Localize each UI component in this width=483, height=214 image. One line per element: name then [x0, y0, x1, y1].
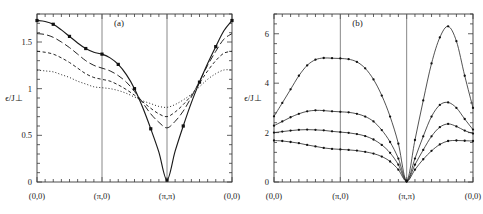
data-marker [472, 132, 474, 134]
data-marker [364, 67, 366, 69]
data-marker [273, 125, 275, 127]
data-marker [281, 140, 283, 142]
data-marker [289, 88, 291, 90]
data-marker [314, 129, 316, 131]
y-axis-label: ϵ/J⊥ [5, 93, 23, 103]
data-marker [447, 25, 449, 27]
data-marker [472, 140, 474, 142]
data-marker [422, 99, 424, 101]
data-marker [273, 139, 275, 141]
data-marker [389, 115, 391, 117]
data-marker [430, 62, 432, 64]
data-marker [289, 129, 291, 131]
data-marker [364, 115, 366, 117]
y-tick-label: 4 [265, 78, 270, 88]
data-marker [372, 78, 374, 80]
data-marker [306, 64, 308, 66]
data-marker [381, 155, 383, 157]
y-tick-label: 0 [265, 177, 269, 187]
data-curve-1 [274, 26, 473, 180]
data-marker [397, 164, 399, 166]
data-marker [298, 75, 300, 77]
data-marker [430, 115, 432, 117]
data-marker [339, 148, 341, 150]
data-marker [356, 113, 358, 115]
data-marker [323, 129, 325, 131]
data-curve-1 [37, 21, 232, 181]
data-marker [397, 157, 399, 159]
data-marker [414, 164, 416, 166]
data-marker [331, 110, 333, 112]
data-marker [422, 135, 424, 137]
data-marker [472, 128, 474, 130]
data-marker [347, 149, 349, 151]
data-marker [306, 128, 308, 130]
data-marker [464, 129, 466, 131]
data-marker [331, 57, 333, 59]
x-tick-label: (0,0) [29, 191, 45, 201]
data-marker [364, 151, 366, 153]
x-tick-label: (0,0) [224, 191, 240, 201]
data-marker [455, 139, 457, 141]
data-marker [372, 138, 374, 140]
data-marker [389, 141, 391, 143]
y-tick-label: 0 [28, 177, 32, 187]
y-tick-label: 1 [28, 84, 32, 94]
x-tick-label: (π,π) [159, 191, 176, 201]
data-marker [281, 130, 283, 132]
data-marker [149, 127, 152, 130]
data-marker [414, 157, 416, 159]
data-marker [100, 53, 103, 56]
y-axis-label: ϵ/J⊥ [244, 93, 262, 103]
data-marker [455, 40, 457, 42]
data-marker [331, 148, 333, 150]
data-marker [214, 45, 217, 48]
data-marker [372, 152, 374, 154]
data-marker [323, 109, 325, 111]
data-marker [347, 132, 349, 134]
data-marker [439, 104, 441, 106]
data-marker [464, 118, 466, 120]
data-marker [298, 142, 300, 144]
y-tick-label: 6 [265, 29, 269, 39]
data-marker [414, 168, 416, 170]
data-marker [422, 149, 424, 151]
data-marker [447, 140, 449, 142]
data-marker [406, 180, 408, 182]
data-marker [439, 143, 441, 145]
x-tick-label: (π,0) [94, 191, 110, 201]
data-marker [455, 107, 457, 109]
data-marker [273, 115, 275, 117]
data-marker [414, 139, 416, 141]
data-marker [314, 109, 316, 111]
data-marker [230, 19, 233, 22]
data-marker [68, 35, 71, 38]
data-marker [84, 47, 87, 50]
data-marker [339, 131, 341, 133]
plot-panel-a: 00.511.5(0,0)(π,0)(π,π)(0,0)ϵ/J⊥(a) [0, 0, 242, 214]
data-marker [397, 143, 399, 145]
data-marker [356, 133, 358, 135]
data-marker [339, 111, 341, 113]
data-marker [339, 57, 341, 59]
data-marker [281, 120, 283, 122]
data-marker [52, 23, 55, 26]
plot-panel-b: 0246(0,0)(π,0)(π,π)(0,0)ϵ/J⊥(b) [241, 0, 483, 214]
data-marker [331, 130, 333, 132]
panel-label: (b) [352, 18, 363, 28]
data-marker [314, 59, 316, 61]
panel-label: (a) [114, 18, 124, 28]
data-marker [356, 61, 358, 63]
y-tick-label: 2 [265, 128, 269, 138]
data-marker [439, 36, 441, 38]
data-marker [364, 135, 366, 137]
data-marker [372, 120, 374, 122]
data-marker [389, 160, 391, 162]
data-curve-4 [274, 140, 473, 181]
figure-container: 00.511.5(0,0)(π,0)(π,π)(0,0)ϵ/J⊥(a) 0246… [0, 0, 483, 214]
data-marker [464, 75, 466, 77]
data-marker [281, 102, 283, 104]
data-marker [306, 110, 308, 112]
data-marker [347, 111, 349, 113]
x-tick-label: (0,0) [266, 191, 282, 201]
